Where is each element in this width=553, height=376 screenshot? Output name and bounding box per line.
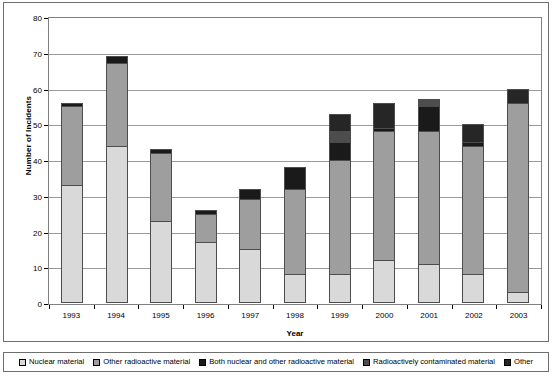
plot-wrapper: 01020304050607080 1993199419951996199719… (48, 17, 542, 305)
bar-stack[interactable] (150, 149, 172, 303)
bar-segment[interactable] (329, 160, 351, 274)
bars-layer (50, 19, 540, 303)
bar-stack[interactable] (195, 210, 217, 303)
bar-segment[interactable] (106, 146, 128, 303)
x-axis-tick (541, 305, 542, 309)
bar-segment[interactable] (373, 260, 395, 303)
chart-legend: Nuclear materialOther radioactive materi… (3, 352, 549, 372)
bar-segment[interactable] (462, 274, 484, 303)
x-axis-label: 1997 (228, 311, 272, 320)
legend-item[interactable]: Other (504, 358, 533, 366)
bar-segment[interactable] (61, 106, 83, 185)
bar-segment[interactable] (462, 124, 484, 142)
legend-label: Nuclear material (29, 358, 84, 366)
bar-segment[interactable] (195, 242, 217, 303)
y-axis-title: Number of Incidents (24, 66, 33, 206)
bar-stack[interactable] (462, 124, 484, 303)
x-axis-label: 1998 (273, 311, 317, 320)
bar-segment[interactable] (373, 131, 395, 260)
x-axis-tick (452, 305, 453, 309)
bar-segment[interactable] (418, 131, 440, 263)
bar-segment[interactable] (106, 63, 128, 145)
bar-slot (406, 19, 451, 303)
bar-segment[interactable] (239, 249, 261, 303)
bar-stack[interactable] (329, 114, 351, 303)
bar-segment[interactable] (150, 153, 172, 221)
y-axis-tick (44, 197, 48, 198)
y-axis-label: 80 (33, 14, 42, 23)
legend-label: Radioactively contaminated material (373, 358, 495, 366)
y-axis-label: 10 (33, 264, 42, 273)
bar-stack[interactable] (418, 99, 440, 303)
chart-frame: Number of Incidents 01020304050607080 19… (3, 2, 549, 342)
x-axis-label: 1996 (184, 311, 228, 320)
x-axis-tick (183, 305, 184, 309)
x-axis-label: 1994 (94, 311, 138, 320)
legend-item[interactable]: Other radioactive material (93, 358, 190, 366)
x-axis-tick (317, 305, 318, 309)
x-axis-tick (273, 305, 274, 309)
bar-segment[interactable] (418, 106, 440, 131)
bar-segment[interactable] (150, 221, 172, 303)
bar-segment[interactable] (284, 167, 306, 188)
x-axis-label: 2002 (452, 311, 496, 320)
bar-segment[interactable] (284, 274, 306, 303)
legend-label: Both nuclear and other radioactive mater… (209, 358, 354, 366)
bar-segment[interactable] (195, 214, 217, 243)
legend-swatch (199, 359, 206, 366)
bar-segment[interactable] (329, 131, 351, 142)
x-axis-tick (49, 305, 50, 309)
bar-slot (50, 19, 95, 303)
bar-segment[interactable] (284, 189, 306, 275)
bar-slot (495, 19, 540, 303)
legend-item[interactable]: Radioactively contaminated material (363, 358, 495, 366)
x-axis-tick (138, 305, 139, 309)
bar-slot (228, 19, 273, 303)
y-axis-label: 70 (33, 49, 42, 58)
bar-stack[interactable] (106, 56, 128, 303)
y-axis-label: 0 (38, 300, 42, 309)
bar-stack[interactable] (373, 103, 395, 303)
bar-segment[interactable] (239, 189, 261, 200)
y-axis-label: 50 (33, 121, 42, 130)
bar-segment[interactable] (418, 99, 440, 106)
legend-item[interactable]: Both nuclear and other radioactive mater… (199, 358, 354, 366)
bar-stack[interactable] (284, 167, 306, 303)
y-axis-tick (44, 161, 48, 162)
bar-segment[interactable] (106, 56, 128, 63)
legend-swatch (504, 359, 511, 366)
legend-label: Other (514, 358, 533, 366)
y-axis-label: 30 (33, 192, 42, 201)
bar-slot (139, 19, 184, 303)
bar-segment[interactable] (507, 89, 529, 103)
x-axis-tick (94, 305, 95, 309)
legend-item[interactable]: Nuclear material (19, 358, 84, 366)
y-axis-tick (44, 90, 48, 91)
bar-segment[interactable] (61, 185, 83, 303)
bar-segment[interactable] (462, 146, 484, 275)
chart-page: Number of Incidents 01020304050607080 19… (0, 0, 553, 376)
bar-segment[interactable] (418, 264, 440, 303)
y-axis-tick (44, 268, 48, 269)
y-axis-label: 20 (33, 228, 42, 237)
y-axis-tick (44, 125, 48, 126)
bar-slot (362, 19, 407, 303)
legend-label: Other radioactive material (103, 358, 190, 366)
bar-stack[interactable] (239, 189, 261, 303)
bar-segment[interactable] (329, 274, 351, 303)
plot-area (48, 17, 542, 305)
x-axis-tick (496, 305, 497, 309)
bar-segment[interactable] (239, 199, 261, 249)
x-axis-label: 1993 (49, 311, 93, 320)
bar-segment[interactable] (507, 292, 529, 303)
bar-segment[interactable] (373, 103, 395, 128)
bar-stack[interactable] (507, 89, 529, 303)
bar-segment[interactable] (329, 142, 351, 160)
x-axis-label: 2000 (362, 311, 406, 320)
legend-swatch (93, 359, 100, 366)
x-axis-label: 2003 (497, 311, 541, 320)
bar-stack[interactable] (61, 103, 83, 303)
bar-segment[interactable] (507, 103, 529, 292)
bar-slot (317, 19, 362, 303)
bar-segment[interactable] (329, 114, 351, 132)
